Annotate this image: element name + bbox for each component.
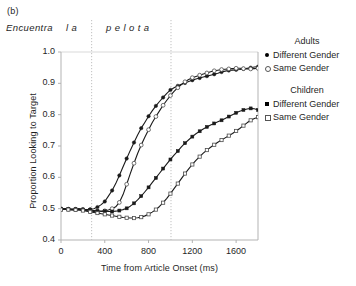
data-point-marker bbox=[198, 155, 201, 158]
data-point-marker bbox=[176, 182, 179, 185]
data-point-marker bbox=[249, 107, 252, 110]
open-square-marker-icon bbox=[262, 111, 273, 122]
data-point-marker bbox=[242, 67, 246, 71]
data-point-marker bbox=[190, 76, 194, 80]
data-point-marker bbox=[205, 148, 208, 151]
data-point-marker bbox=[242, 124, 245, 127]
legend-label: Different Gender bbox=[273, 50, 339, 60]
data-point-marker bbox=[132, 161, 136, 165]
data-point-marker bbox=[132, 216, 135, 219]
series-layer bbox=[59, 65, 260, 220]
data-point-marker bbox=[234, 66, 238, 70]
data-point-marker bbox=[235, 111, 238, 114]
data-point-marker bbox=[147, 128, 151, 132]
data-point-marker bbox=[96, 211, 99, 214]
data-point-marker bbox=[257, 108, 260, 111]
data-point-marker bbox=[140, 216, 143, 219]
data-point-marker bbox=[213, 143, 216, 146]
legend-label: Same Gender bbox=[273, 112, 329, 122]
series-line bbox=[61, 108, 258, 211]
data-point-marker bbox=[103, 210, 106, 213]
legend-spacer bbox=[262, 74, 356, 85]
series-adults-same-gender bbox=[59, 66, 260, 213]
data-point-marker bbox=[242, 108, 245, 111]
series-adults-different-gender bbox=[59, 65, 259, 211]
data-point-marker bbox=[162, 201, 165, 204]
data-point-marker bbox=[118, 174, 121, 177]
open-circle-marker-icon bbox=[262, 62, 273, 73]
data-point-marker bbox=[220, 119, 223, 122]
data-point-marker bbox=[213, 122, 216, 125]
data-point-marker bbox=[169, 158, 172, 161]
data-point-marker bbox=[205, 71, 209, 75]
data-point-marker bbox=[169, 94, 173, 98]
legend: Adults Different Gender Same Gender Chil… bbox=[262, 36, 356, 123]
data-point-marker bbox=[198, 130, 201, 133]
data-point-marker bbox=[154, 208, 157, 211]
data-point-marker bbox=[220, 68, 224, 72]
data-point-marker bbox=[125, 182, 129, 186]
series-line bbox=[61, 67, 258, 210]
data-point-marker bbox=[89, 210, 92, 213]
legend-item-children-same-gender[interactable]: Same Gender bbox=[262, 110, 356, 123]
data-point-marker bbox=[125, 207, 128, 210]
legend-label: Same Gender bbox=[273, 63, 329, 73]
data-point-marker bbox=[132, 141, 135, 144]
data-point-marker bbox=[183, 80, 187, 84]
filled-square-marker-icon bbox=[262, 98, 273, 109]
series-line bbox=[61, 68, 258, 212]
data-point-marker bbox=[67, 208, 70, 211]
data-point-marker bbox=[198, 73, 202, 77]
data-point-marker bbox=[176, 150, 179, 153]
figure-panel-b: (b) Encuentra l a p e l o t a Proportion… bbox=[0, 0, 356, 286]
legend-item-adults-different-gender[interactable]: Different Gender bbox=[262, 48, 356, 61]
series-line bbox=[61, 117, 258, 218]
data-point-marker bbox=[176, 86, 180, 90]
data-point-marker bbox=[162, 167, 165, 170]
data-point-marker bbox=[103, 213, 106, 216]
data-point-marker bbox=[74, 208, 77, 211]
series-children-same-gender bbox=[59, 116, 259, 220]
data-point-marker bbox=[110, 189, 113, 192]
data-point-marker bbox=[111, 214, 114, 217]
data-point-marker bbox=[205, 125, 208, 128]
data-point-marker bbox=[169, 192, 172, 195]
data-point-marker bbox=[154, 176, 157, 179]
data-point-marker bbox=[212, 69, 216, 73]
data-point-marker bbox=[125, 216, 128, 219]
data-point-marker bbox=[133, 202, 136, 205]
data-point-marker bbox=[191, 163, 194, 166]
data-point-marker bbox=[147, 115, 150, 118]
data-point-marker bbox=[227, 115, 230, 118]
data-point-marker bbox=[140, 195, 143, 198]
data-point-marker bbox=[154, 115, 158, 119]
filled-circle-marker-icon bbox=[262, 49, 273, 60]
data-point-marker bbox=[118, 209, 121, 212]
data-point-marker bbox=[220, 138, 223, 141]
data-point-marker bbox=[147, 186, 150, 189]
data-point-marker bbox=[111, 210, 114, 213]
data-point-marker bbox=[117, 201, 121, 205]
data-point-marker bbox=[227, 134, 230, 137]
data-point-marker bbox=[235, 129, 238, 132]
data-point-marker bbox=[227, 67, 231, 71]
legend-group-adults: Adults Different Gender Same Gender bbox=[262, 36, 356, 74]
data-point-marker bbox=[154, 104, 157, 107]
data-point-marker bbox=[161, 103, 165, 107]
data-point-marker bbox=[184, 142, 187, 145]
legend-group-children: Children Different Gender Same Gender bbox=[262, 85, 356, 123]
data-point-marker bbox=[96, 205, 99, 208]
data-point-marker bbox=[140, 126, 143, 129]
legend-item-children-different-gender[interactable]: Different Gender bbox=[262, 97, 356, 110]
legend-item-adults-same-gender[interactable]: Same Gender bbox=[262, 61, 356, 74]
data-point-marker bbox=[161, 96, 164, 99]
data-point-marker bbox=[249, 67, 253, 71]
legend-title-adults: Adults bbox=[262, 36, 356, 46]
legend-label: Different Gender bbox=[273, 99, 339, 109]
data-point-marker bbox=[125, 157, 128, 160]
data-point-marker bbox=[256, 116, 259, 119]
data-point-marker bbox=[183, 172, 186, 175]
data-point-marker bbox=[191, 135, 194, 138]
data-point-marker bbox=[147, 213, 150, 216]
data-point-marker bbox=[169, 88, 172, 91]
